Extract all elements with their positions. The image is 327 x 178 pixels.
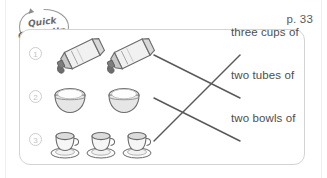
row-1-objects (48, 33, 158, 77)
teacup-saucer-icon (123, 132, 151, 158)
match-line-row2-to-two-bowls[interactable] (154, 98, 240, 141)
row-number-1: 1 (29, 47, 42, 60)
matching-lines (150, 33, 246, 163)
answer-label-two-bowls-of[interactable]: two bowls of (231, 112, 295, 124)
rice-bowl-icon (55, 89, 85, 113)
page-edge-right-rule (321, 0, 322, 178)
row-number-2: 2 (29, 90, 42, 103)
match-line-row1-to-two-tubes[interactable] (154, 55, 240, 98)
match-line-row3-to-three-cups[interactable] (154, 55, 240, 141)
row-number-3: 3 (29, 133, 42, 146)
row-2-objects (48, 76, 158, 120)
exercise-card: 1 (19, 29, 305, 165)
paint-tube-icon (102, 36, 156, 74)
answer-label-two-tubes-of[interactable]: two tubes of (231, 69, 294, 81)
teacup-saucer-icon (51, 132, 79, 158)
page-number: p. 33 (286, 13, 313, 25)
answer-label-three-cups-of[interactable]: three cups of (231, 26, 299, 38)
page-edge-left-rule (5, 0, 6, 178)
rice-bowl-icon (109, 89, 139, 113)
teacup-saucer-icon (87, 132, 115, 158)
row-3-objects (48, 119, 158, 163)
paint-tube-icon (52, 36, 106, 74)
